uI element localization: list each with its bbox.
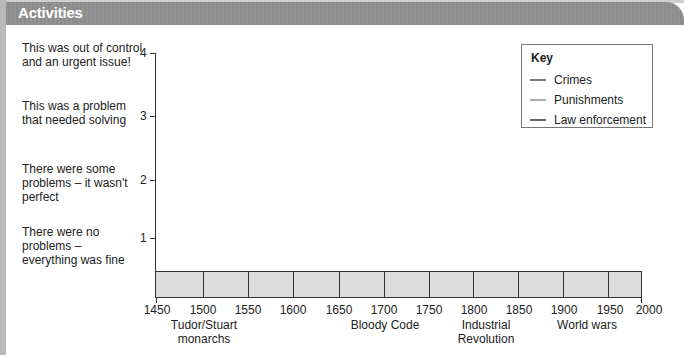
y-description-1: There were no problems – everything was …: [22, 225, 134, 267]
y-tick-label-3: 3: [140, 109, 147, 123]
era-label: Industrial: [458, 318, 515, 332]
crimes-line-icon: [530, 79, 546, 81]
x-tick-label: 1950: [597, 303, 624, 317]
strip-divider: [429, 271, 430, 298]
strip-divider: [203, 271, 204, 298]
strip-divider: [384, 271, 385, 298]
strip-divider: [248, 271, 249, 298]
era-industrial-revolution: Industrial Revolution: [458, 318, 515, 346]
strip-divider: [563, 271, 564, 298]
x-tick-label: 1850: [506, 303, 533, 317]
law-enforcement-line-icon: [530, 119, 546, 121]
activities-header: Activities: [6, 2, 684, 25]
legend-label: Law enforcement: [554, 113, 646, 127]
x-tick-label: 1500: [190, 303, 217, 317]
era-tudor-stuart: Tudor/Stuart monarchs: [171, 318, 237, 346]
legend-item-punishments: Punishments: [530, 93, 623, 107]
x-tick-label: 1450: [144, 303, 171, 317]
x-tick-label: 1800: [461, 303, 488, 317]
strip-divider: [473, 271, 474, 298]
legend-label: Crimes: [554, 73, 592, 87]
legend-label: Punishments: [554, 93, 623, 107]
era-label: monarchs: [171, 332, 237, 346]
y-tick-1: [150, 238, 156, 239]
punishments-line-icon: [530, 99, 546, 101]
x-tick-label: 2000: [636, 303, 663, 317]
y-tick-label-4: 4: [140, 46, 147, 60]
frame-left: [0, 0, 6, 355]
legend-title: Key: [531, 51, 553, 65]
era-label: World wars: [557, 318, 617, 332]
y-axis: [155, 53, 156, 298]
x-tick-label: 1900: [551, 303, 578, 317]
x-tick-label: 1550: [235, 303, 262, 317]
era-bloody-code: Bloody Code: [351, 318, 420, 332]
strip-divider: [518, 271, 519, 298]
y-tick-label-2: 2: [140, 173, 147, 187]
panel-corner: [654, 25, 680, 35]
y-description-4: This was out of control and an urgent is…: [22, 41, 152, 69]
legend: Key Crimes Punishments Law enforcement: [521, 44, 653, 128]
header-title: Activities: [18, 4, 83, 21]
y-description-3: This was a problem that needed solving: [22, 99, 142, 127]
legend-item-crimes: Crimes: [530, 73, 592, 87]
era-label: Tudor/Stuart: [171, 318, 237, 332]
era-label: Bloody Code: [351, 318, 420, 332]
era-label: Revolution: [458, 332, 515, 346]
strip-divider: [608, 271, 609, 298]
x-tick-label: 1650: [326, 303, 353, 317]
y-tick-label-1: 1: [140, 231, 147, 245]
y-tick-3: [150, 116, 156, 117]
legend-item-law-enforcement: Law enforcement: [530, 113, 646, 127]
x-tick-label: 1750: [416, 303, 443, 317]
era-world-wars: World wars: [557, 318, 617, 332]
x-tick-label: 1700: [371, 303, 398, 317]
timeline-strip: [156, 271, 642, 298]
y-description-2: There were some problems – it wasn't per…: [22, 162, 134, 204]
y-tick-2: [150, 180, 156, 181]
x-tick-label: 1600: [280, 303, 307, 317]
y-tick-4: [150, 53, 156, 54]
strip-divider: [339, 271, 340, 298]
strip-divider: [293, 271, 294, 298]
